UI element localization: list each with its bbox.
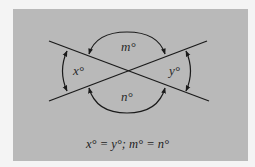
angle-x-label: x° xyxy=(73,64,84,77)
angle-n-label: n° xyxy=(121,90,133,103)
angle-x-arc xyxy=(63,51,68,91)
angle-m-label: m° xyxy=(121,40,136,53)
angle-y-label: y° xyxy=(169,64,180,77)
angle-y-arc xyxy=(186,51,191,91)
diagram-caption: x° = y°; m° = n° xyxy=(0,137,255,152)
